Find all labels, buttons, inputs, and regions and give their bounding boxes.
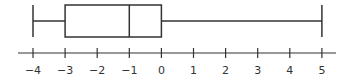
tick-label: −2 <box>89 64 105 77</box>
box-plot <box>33 5 322 37</box>
tick-label: −4 <box>25 64 41 77</box>
tick-label: 5 <box>318 64 325 77</box>
iqr-box <box>65 5 161 37</box>
number-line-axis: −4−3−2−1012345 <box>18 48 336 77</box>
tick-label: 3 <box>254 64 261 77</box>
tick-label: 4 <box>286 64 293 77</box>
box-plot-chart: −4−3−2−1012345 <box>0 0 348 80</box>
tick-label: 2 <box>222 64 229 77</box>
tick-label: −1 <box>121 64 137 77</box>
tick-label: 1 <box>190 64 197 77</box>
tick-label: −3 <box>57 64 73 77</box>
tick-label: 0 <box>158 64 165 77</box>
